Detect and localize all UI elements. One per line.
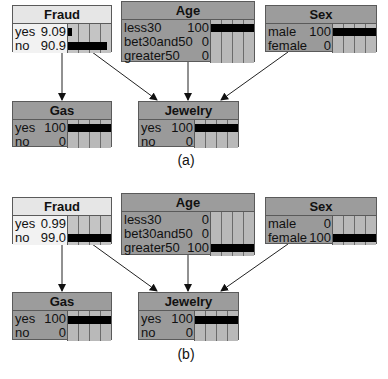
belief-bar: [68, 234, 111, 242]
state-label: female: [268, 231, 307, 245]
state-value: 0.99: [41, 217, 66, 231]
state-value: 100: [171, 121, 193, 135]
belief-bar: [333, 234, 376, 242]
state-label: yes: [141, 312, 161, 326]
state-label: no: [15, 231, 29, 245]
state-row: less300: [124, 213, 210, 227]
node-title: Jewelry: [139, 293, 238, 311]
belief-bar: [68, 124, 111, 132]
state-value: 100: [309, 25, 331, 39]
belief-bars: [67, 311, 111, 341]
state-value: 0: [202, 213, 209, 227]
state-label: female: [268, 39, 307, 53]
state-value: 0: [59, 326, 66, 340]
state-row: greater50100: [124, 241, 210, 255]
state-label: no: [141, 135, 155, 149]
node-title: Fraud: [13, 6, 111, 24]
node-title: Gas: [13, 293, 111, 311]
state-row: female100: [268, 231, 332, 245]
belief-bar: [195, 124, 238, 132]
state-value: 0: [324, 39, 331, 53]
belief-bars: [210, 212, 254, 256]
belief-bar: [211, 24, 254, 32]
state-row: no90.9: [15, 39, 67, 53]
state-value: 0: [324, 217, 331, 231]
state-row: less30100: [124, 21, 210, 35]
state-row: no0: [15, 135, 67, 149]
state-label: no: [15, 135, 29, 149]
state-row: male100: [268, 25, 332, 39]
node-sex[interactable]: Sex male0 female100: [265, 197, 377, 244]
state-row: yes9.09: [15, 25, 67, 39]
state-label: bet30and50: [124, 227, 193, 241]
state-value: 0: [202, 35, 209, 49]
panel-caption: (b): [166, 346, 206, 362]
state-value: 0: [202, 227, 209, 241]
state-value: 0: [59, 135, 66, 149]
node-sex[interactable]: Sex male100 female0: [265, 5, 377, 52]
node-jewelry[interactable]: Jewelry yes100 no0: [138, 101, 239, 147]
belief-bars: [332, 24, 376, 53]
belief-bar: [211, 244, 254, 252]
node-title: Jewelry: [139, 102, 238, 120]
state-label: yes: [141, 121, 161, 135]
belief-bar: [195, 316, 238, 324]
state-value: 100: [44, 121, 66, 135]
belief-bars: [210, 20, 254, 63]
node-fraud[interactable]: Fraud yes0.99 no99.0: [12, 197, 112, 244]
node-title: Age: [122, 194, 254, 212]
state-value: 0: [202, 49, 209, 63]
state-label: greater50: [124, 49, 180, 63]
belief-bar: [68, 42, 107, 50]
state-label: no: [141, 326, 155, 340]
node-age[interactable]: Age less30100 bet30and500 greater500: [121, 1, 255, 62]
state-row: greater500: [124, 49, 210, 63]
node-gas[interactable]: Gas yes100 no0: [12, 292, 112, 340]
belief-bars: [332, 216, 376, 245]
state-row: female0: [268, 39, 332, 53]
state-label: yes: [15, 121, 35, 135]
state-value: 0: [186, 326, 193, 340]
state-label: less30: [124, 213, 162, 227]
state-value: 100: [309, 231, 331, 245]
state-label: less30: [124, 21, 162, 35]
state-row: no0: [141, 135, 194, 149]
state-label: male: [268, 25, 296, 39]
state-value: 0: [186, 135, 193, 149]
state-label: male: [268, 217, 296, 231]
node-title: Gas: [13, 102, 111, 120]
state-label: no: [15, 39, 29, 53]
state-label: no: [15, 326, 29, 340]
state-value: 100: [44, 312, 66, 326]
state-row: bet30and500: [124, 35, 210, 49]
node-title: Fraud: [13, 198, 111, 216]
state-label: yes: [15, 217, 35, 231]
node-title: Sex: [266, 198, 376, 216]
node-fraud[interactable]: Fraud yes9.09 no90.9: [12, 5, 112, 52]
state-row: no0: [141, 326, 194, 340]
state-row: yes100: [141, 121, 194, 135]
belief-bars: [194, 120, 238, 148]
state-value: 99.0: [41, 231, 66, 245]
state-row: yes100: [15, 121, 67, 135]
node-age[interactable]: Age less300 bet30and500 greater50100: [121, 193, 255, 255]
belief-bars: [67, 120, 111, 148]
belief-bar: [333, 28, 376, 36]
state-row: yes100: [15, 312, 67, 326]
state-value: 100: [187, 21, 209, 35]
belief-bar: [68, 316, 111, 324]
node-title: Age: [122, 2, 254, 20]
state-value: 100: [171, 312, 193, 326]
state-row: male0: [268, 217, 332, 231]
node-gas[interactable]: Gas yes100 no0: [12, 101, 112, 147]
state-row: no99.0: [15, 231, 67, 245]
state-value: 9.09: [41, 25, 66, 39]
state-label: greater50: [124, 241, 180, 255]
belief-bar: [68, 28, 72, 36]
state-label: bet30and50: [124, 35, 193, 49]
state-label: yes: [15, 25, 35, 39]
node-jewelry[interactable]: Jewelry yes100 no0: [138, 292, 239, 340]
state-row: no0: [15, 326, 67, 340]
belief-bars: [67, 24, 111, 53]
state-row: yes0.99: [15, 217, 67, 231]
